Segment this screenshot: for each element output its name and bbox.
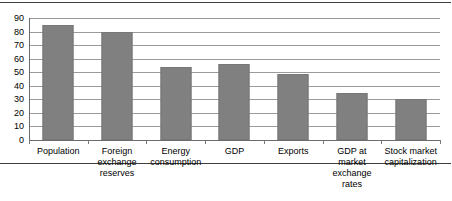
bar — [160, 67, 191, 140]
y-axis-tick-labels: 9080706050403020100 — [2, 0, 24, 201]
y-axis-tick-30: 30 — [2, 95, 24, 104]
x-axis-label-line: GDP — [205, 146, 264, 157]
x-axis-label-2: Energyconsumption — [146, 146, 205, 168]
bar-chart: 9080706050403020100 PopulationForeignexc… — [0, 0, 452, 201]
bar — [278, 74, 309, 140]
bar-slot — [264, 18, 323, 140]
y-axis-tick-90: 90 — [2, 14, 24, 23]
x-axis-tick — [264, 140, 265, 144]
y-axis-tick-40: 40 — [2, 81, 24, 90]
y-axis-tick-50: 50 — [2, 68, 24, 77]
bar-slot — [29, 18, 88, 140]
x-axis-label-line: rates — [323, 179, 382, 190]
x-axis-label-6: Stock marketcapitalization — [381, 146, 440, 168]
x-axis-tick — [29, 140, 30, 144]
y-axis-tick-20: 20 — [2, 108, 24, 117]
x-axis-line — [29, 140, 441, 141]
x-axis-tick — [88, 140, 89, 144]
x-axis-category-labels: PopulationForeignexchangereservesEnergyc… — [29, 146, 440, 198]
y-axis-tick-70: 70 — [2, 41, 24, 50]
bar — [336, 93, 367, 140]
x-axis-label-line: capitalization — [381, 157, 440, 168]
x-axis-label-3: GDP — [205, 146, 264, 157]
x-axis-label-line: Exports — [264, 146, 323, 157]
bar-slot — [381, 18, 440, 140]
bar-slot — [146, 18, 205, 140]
x-axis-label-line: exchange — [323, 168, 382, 179]
x-axis-label-line: GDP at market — [323, 146, 382, 168]
bar — [102, 32, 133, 140]
bar — [43, 25, 74, 140]
y-axis-tick-60: 60 — [2, 54, 24, 63]
x-axis-tick — [381, 140, 382, 144]
bar-slot — [88, 18, 147, 140]
x-axis-label-line: Foreign — [88, 146, 147, 157]
y-axis-tick-10: 10 — [2, 122, 24, 131]
x-axis-tick — [323, 140, 324, 144]
x-axis-label-line: Population — [29, 146, 88, 157]
bar — [395, 99, 426, 140]
x-axis-label-line: Energy — [146, 146, 205, 157]
bar-series — [29, 18, 440, 140]
x-axis-tick — [146, 140, 147, 144]
x-axis-label-0: Population — [29, 146, 88, 157]
bar — [219, 64, 250, 140]
bar-slot — [205, 18, 264, 140]
y-axis-tick-0: 0 — [2, 136, 24, 145]
bar-slot — [323, 18, 382, 140]
x-axis-label-line: exchange — [88, 157, 147, 168]
x-axis-label-1: Foreignexchangereserves — [88, 146, 147, 179]
x-axis-tick — [440, 140, 441, 144]
x-axis-label-line: reserves — [88, 168, 147, 179]
x-axis-label-line: Stock market — [381, 146, 440, 157]
y-axis-tick-80: 80 — [2, 27, 24, 36]
x-axis-label-5: GDP at marketexchangerates — [323, 146, 382, 190]
x-axis-tick — [205, 140, 206, 144]
x-axis-label-4: Exports — [264, 146, 323, 157]
x-axis-label-line: consumption — [146, 157, 205, 168]
